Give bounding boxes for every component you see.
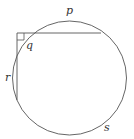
geometry-diagram: p q r s <box>0 0 134 139</box>
right-angle-marker <box>17 33 24 40</box>
label-r: r <box>5 71 11 84</box>
label-q: q <box>26 39 33 52</box>
label-s: s <box>104 121 110 134</box>
label-p: p <box>66 4 73 17</box>
